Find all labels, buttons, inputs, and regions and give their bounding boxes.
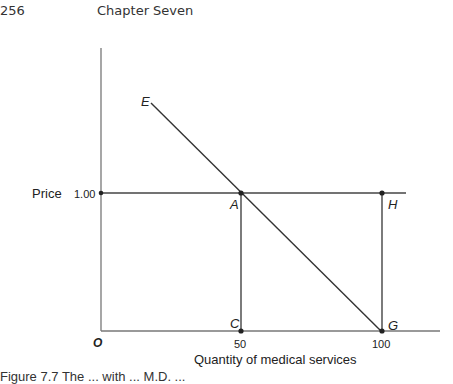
y-tick-label: 1.00 xyxy=(74,188,95,200)
y-axis-label: Price xyxy=(32,186,62,201)
point-h-dot xyxy=(379,190,384,195)
point-a-dot xyxy=(238,190,243,195)
point-e-label: E xyxy=(141,94,150,109)
point-price-dot xyxy=(99,191,104,196)
x-axis-label: Quantity of medical services xyxy=(194,352,357,367)
point-c-label: C xyxy=(230,316,240,331)
point-g-dot xyxy=(379,328,384,333)
point-h-label: H xyxy=(388,197,398,212)
figure-caption: Figure 7.7 The ... with ... M.D. ... xyxy=(0,369,185,384)
x-tick-100: 100 xyxy=(372,338,390,350)
demand-line xyxy=(151,103,382,332)
origin-label: O xyxy=(93,336,103,350)
point-a-label: A xyxy=(229,197,239,212)
x-tick-50: 50 xyxy=(234,338,246,350)
point-g-label: G xyxy=(388,318,398,333)
